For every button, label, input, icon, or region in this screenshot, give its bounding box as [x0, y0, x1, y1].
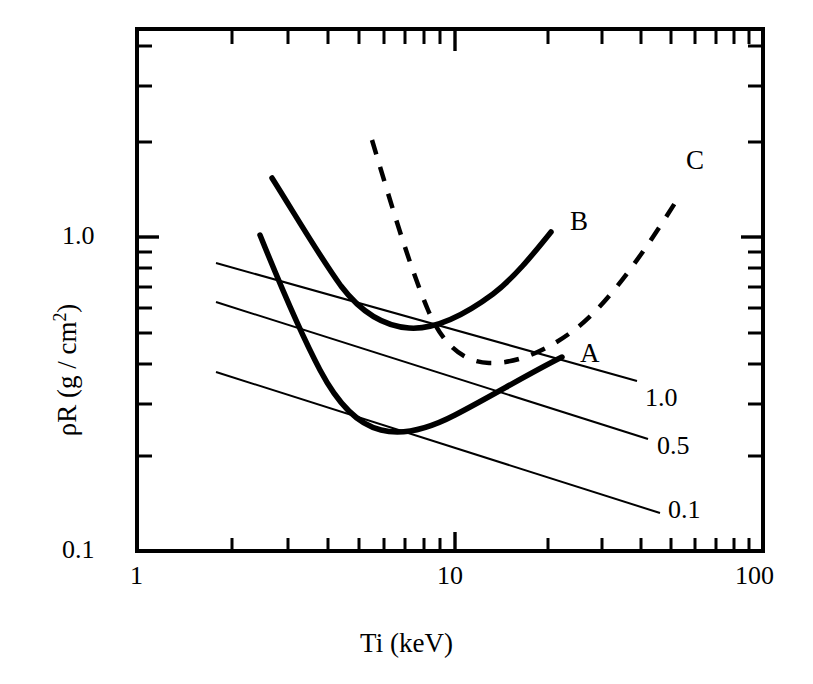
curve-label-a: A — [580, 338, 600, 369]
y-axis-title-superscript: 2 — [50, 313, 70, 322]
x-axis-ticks — [137, 29, 763, 551]
x-tick-label-10: 10 — [437, 561, 463, 591]
curve-a — [260, 235, 562, 432]
curve-b — [272, 178, 551, 328]
x-tick-label-1: 1 — [130, 561, 143, 591]
y-axis-ticks — [137, 46, 763, 551]
y-tick-label-0p1: 0.1 — [62, 535, 95, 565]
x-axis-title: Ti (keV) — [0, 628, 813, 659]
reference-line-label-0p1: 0.1 — [668, 495, 701, 525]
y-axis-title: ρR (g / cm2) — [50, 220, 83, 520]
plot-frame — [137, 29, 763, 551]
curve-label-b: B — [570, 206, 588, 237]
reference-line-label-1p0: 1.0 — [645, 383, 678, 413]
reference-line-label-0p5: 0.5 — [657, 431, 690, 461]
x-tick-label-100: 100 — [735, 561, 774, 591]
chart-canvas — [0, 0, 813, 684]
reference-lines — [216, 263, 660, 513]
figure-container: 1.0 0.1 1 10 100 A B C 1.0 0.5 0.1 Ti (k… — [0, 0, 813, 684]
curve-label-c: C — [686, 145, 704, 176]
x-axis-title-text: Ti (keV) — [360, 628, 453, 658]
y-axis-title-prefix: ρR (g / cm — [52, 322, 82, 437]
y-axis-title-suffix: ) — [52, 304, 82, 313]
reference-line-0p1 — [216, 372, 660, 513]
